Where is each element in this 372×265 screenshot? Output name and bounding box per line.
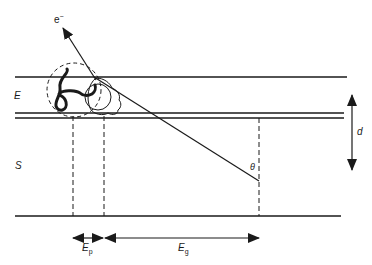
layer-e-label: E <box>14 91 21 101</box>
path-line <box>94 77 259 181</box>
layer-s-label: S <box>15 161 22 171</box>
ep-label: Ep <box>82 243 93 255</box>
electron-label: e− <box>54 13 64 25</box>
eg-sub: g <box>185 248 189 255</box>
ep-sub: p <box>89 248 93 255</box>
ep-main: E <box>82 242 89 253</box>
depth-label: d <box>357 127 363 137</box>
angle-label: θ <box>250 163 255 172</box>
emission-diagram: e− E S d θ Ep Eg <box>0 0 372 265</box>
electron-trajectory <box>56 69 95 110</box>
electron-charge: − <box>60 13 64 20</box>
eg-main: E <box>178 242 185 253</box>
inner-circle <box>85 84 111 110</box>
diagram-canvas <box>0 0 372 265</box>
eg-label: Eg <box>178 243 189 255</box>
